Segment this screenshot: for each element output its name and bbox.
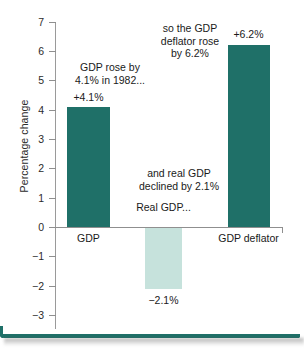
- category-label-gdp: GDP: [52, 232, 125, 244]
- annotation-gdp-rose: GDP rose by 4.1% in 1982...: [56, 61, 164, 86]
- category-label-real-gdp: Real GDP...: [127, 201, 200, 213]
- category-label-gdp-deflator: GDP deflator: [212, 232, 285, 244]
- y-tick-1: [49, 198, 56, 199]
- y-tick-label-0: 0: [10, 222, 44, 233]
- y-tick-label-1: 1: [10, 193, 44, 204]
- bar-value-gdp: +4.1%: [52, 91, 125, 103]
- bar-gdp-deflator: [228, 45, 270, 227]
- y-tick-3: [49, 139, 56, 140]
- y-tick-7: [49, 22, 56, 23]
- y-axis-title: Percentage change: [18, 86, 30, 206]
- y-tick-0: [49, 227, 56, 228]
- y-tick-label-5: 5: [10, 75, 44, 86]
- bar-gdp: [67, 107, 110, 227]
- bar-value-real-gdp: −2.1%: [127, 294, 200, 306]
- y-tick-4: [49, 110, 56, 111]
- y-tick-label-neg2: −2: [10, 281, 44, 292]
- chart-plot-area: Percentage change 7 6 5 4 3 2 1 0 −1 −2 …: [0, 0, 304, 334]
- figure-card: Percentage change 7 6 5 4 3 2 1 0 −1 −2 …: [0, 0, 304, 357]
- y-tick-neg3: [49, 315, 56, 316]
- y-tick-label-7: 7: [10, 17, 44, 28]
- y-tick-label-neg1: −1: [10, 251, 44, 262]
- y-tick-neg2: [49, 286, 56, 287]
- y-tick-neg1: [49, 256, 56, 257]
- annotation-real-gdp-declined: and real GDP declined by 2.1%: [123, 167, 235, 192]
- y-tick-6: [49, 51, 56, 52]
- bar-real-gdp: [145, 228, 182, 289]
- y-tick-2: [49, 168, 56, 169]
- y-tick-label-3: 3: [10, 134, 44, 145]
- figure-drop-shadow: [4, 338, 304, 346]
- y-tick-label-6: 6: [10, 46, 44, 57]
- y-tick-5: [49, 80, 56, 81]
- y-tick-label-neg3: −3: [10, 310, 44, 321]
- y-tick-label-2: 2: [10, 163, 44, 174]
- y-tick-label-4: 4: [10, 105, 44, 116]
- annotation-deflator-rose: so the GDP deflator rose by 6.2%: [152, 22, 228, 60]
